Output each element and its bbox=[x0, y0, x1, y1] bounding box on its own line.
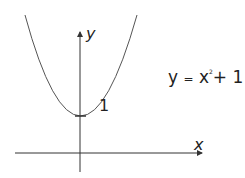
x-axis-label: x bbox=[194, 137, 203, 153]
equation-label: y = x2+ 1 bbox=[168, 67, 243, 87]
equation-equals: = bbox=[183, 72, 193, 86]
equation-base: x bbox=[199, 67, 209, 87]
parabola-graph bbox=[0, 0, 245, 178]
y-intercept-label: 1 bbox=[99, 98, 109, 114]
y-axis-label: y bbox=[86, 26, 95, 42]
parabola-curve bbox=[25, 15, 137, 116]
equation-rest: + 1 bbox=[213, 67, 243, 87]
equation-lhs: y bbox=[168, 67, 178, 87]
